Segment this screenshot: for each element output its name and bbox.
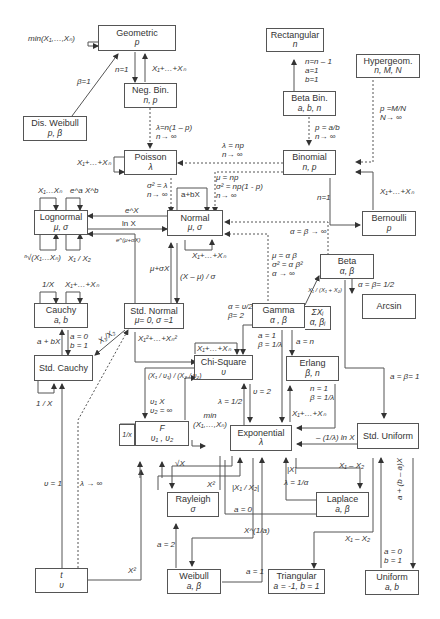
- node-params: n: [293, 40, 298, 50]
- node-std-normal: Std. Normal μ= 0, σ =1: [124, 303, 184, 329]
- node-neg-bin: Neg. Bin. n, p: [124, 83, 177, 108]
- label-gamma-erlang: a = n: [296, 338, 314, 347]
- label-logn-ratio: X₁ / X₂: [68, 255, 91, 264]
- label-logn-prod: X₁…Xₙ: [38, 187, 62, 196]
- label-betabin-bin: p = a/b n→ ∞: [315, 124, 340, 142]
- label-geo-min: min(X₁,…,Xₙ): [28, 35, 75, 44]
- label-unif-cond: a = 0 b = 1: [384, 548, 402, 566]
- label-laplace-diff: X₁ – X₂: [339, 462, 364, 471]
- node-laplace: Laplace a, β: [316, 492, 369, 517]
- label-a0: a = 0: [234, 506, 252, 515]
- label-unif-exp: – (1/λ) ln X: [316, 434, 355, 443]
- label-cauchy-inv: 1/X: [42, 281, 54, 290]
- label-bern-sum: X₁+…+Xₙ: [380, 188, 414, 197]
- label-abs-x: |X|: [287, 466, 297, 475]
- label-geo-sum: X₁+…+Xₙ: [152, 65, 186, 74]
- label-pois-sum: X₁+…+Xₙ: [77, 159, 111, 168]
- node-params: p: [135, 38, 140, 48]
- node-params: α , β: [270, 316, 287, 326]
- node-gamma-sum-box: ΣXᵢ α, βᵢ: [305, 306, 331, 330]
- node-params: n, p: [143, 96, 157, 106]
- label-logn-root: ⁿ√(X₁…Xₙ): [24, 254, 61, 263]
- label-t-sq: X²: [128, 567, 136, 576]
- node-params: a, b: [385, 583, 399, 593]
- node-normal: Normal μ, σ: [167, 210, 223, 236]
- label-bin-norm: μ = np σ² = np(1 - p) n→ ∞: [216, 174, 263, 200]
- node-rectangular: Rectangular n: [266, 28, 324, 52]
- node-cauchy: Cauchy a, b: [34, 303, 88, 328]
- node-chi-square: Chi-Square υ: [194, 355, 253, 380]
- label-erlang-cond: n = 1 β = 1/λ: [310, 385, 334, 403]
- label-gamma-exp: a = 1 β = 1/λ: [258, 332, 282, 350]
- label-hyper-cond: p =M/N N→ ∞: [380, 105, 406, 123]
- node-params: a, β: [187, 582, 201, 592]
- node-f: F υ₁ , υ₂: [135, 421, 189, 446]
- label-gamma-chi: α = υ/2 β= 2: [228, 303, 253, 321]
- label-disw-beta1: β=1: [77, 78, 91, 87]
- node-rayleigh: Rayleigh σ: [167, 492, 219, 517]
- node-beta-bin: Beta Bin. a, b, n: [283, 91, 336, 116]
- node-poisson: Poisson λ: [124, 150, 177, 175]
- node-name: Arcsin: [376, 301, 401, 311]
- label-bin-pois: λ = np n→ ∞: [222, 142, 244, 160]
- label-chi-sum: X₁+…+Xₙ: [197, 345, 231, 354]
- label-ratio-abs: |X₁ / X₂|: [232, 484, 259, 493]
- label-mu-sigma-exp: e^(μ+σX): [116, 237, 141, 244]
- node-uniform: Uniform a, b: [365, 570, 419, 595]
- node-beta: Beta α, β: [320, 254, 374, 279]
- label-beta-norm: α = β → ∞: [290, 228, 326, 237]
- node-params: n, p: [302, 163, 316, 173]
- node-exponential: Exponential λ: [230, 425, 292, 451]
- label-chi-f: (X₁ / υ₁) / (X₂ / υ₂): [148, 372, 202, 380]
- node-params: μ, σ: [188, 223, 203, 233]
- node-name: Std. Cauchy: [39, 363, 88, 373]
- node-params: n, M, N: [374, 66, 401, 76]
- node-hypergeom: Hypergeom. n, M, N: [356, 54, 420, 78]
- node-f-inv-box: 1/x: [119, 424, 135, 446]
- label-laplace-cond: λ = 1/α: [284, 479, 308, 488]
- node-params: λ: [259, 438, 263, 448]
- label-cauchy-sum: X₁+…+Xₙ: [65, 281, 99, 290]
- label-logn-pow: e^a X^b: [70, 187, 98, 196]
- node-params: a, b, n: [298, 104, 322, 114]
- node-params: a, β: [335, 505, 349, 515]
- label-ln-x: ln X: [122, 220, 136, 229]
- node-weibull: Weibull a, β: [167, 569, 221, 594]
- label-sqrt-x: √X: [175, 460, 185, 469]
- node-params: p: [387, 224, 392, 234]
- label-tri-diff: X₁ – X₂: [345, 535, 370, 544]
- node-params: a = -1, b = 1: [274, 582, 320, 592]
- node-dis-weibull: Dis. Weibull p, β: [23, 116, 87, 141]
- node-std-cauchy: Std. Cauchy: [34, 355, 93, 381]
- node-triangular: Triangular a = -1, b = 1: [268, 569, 325, 594]
- label-t-lambda: λ → ∞: [80, 480, 102, 489]
- label-norm-affine: a+bX: [181, 191, 200, 200]
- label-gamma-norm: μ = α β σ² = α β² α → ∞: [272, 252, 303, 278]
- node-params: λ: [148, 163, 152, 173]
- label-beta-stdunif: a = β= 1: [390, 373, 419, 382]
- label-weib-a1: a = 1: [246, 568, 264, 577]
- label-cauchy-affine: a + bX: [37, 338, 60, 347]
- label-unif-affine: a + (b – a)X: [396, 458, 405, 500]
- node-params: υ: [221, 368, 226, 378]
- label-stdnorm-sq: X₁²+…+Xₙ²: [138, 335, 177, 344]
- node-params: μ, σ: [54, 223, 69, 233]
- node-params: υ: [59, 581, 64, 591]
- label-f-lim: υ₁ X υ₂ = ∞: [150, 398, 172, 416]
- label-exp-x: e^X: [125, 207, 139, 216]
- label-norm-sum: X₁+…+Xₙ: [192, 252, 226, 261]
- node-name: Std. Uniform: [363, 431, 413, 441]
- label-weib-xpow: X^(1/a): [244, 527, 270, 536]
- label-rect-cond: n=n – 1 a=1 b=1: [305, 58, 332, 84]
- node-params: μ= 0, σ =1: [135, 316, 174, 326]
- node-params: σ: [190, 505, 195, 515]
- node-t: t υ: [35, 568, 88, 593]
- node-params: a, b: [54, 316, 68, 326]
- node-erlang: Erlang β, n: [286, 356, 339, 381]
- label-chi-exp-nu: υ = 2: [253, 388, 271, 397]
- label-exp-min: min (X₁,…,Xₙ): [193, 412, 227, 430]
- label-cauchy-cond: a = 0 b = 1: [70, 333, 88, 351]
- label-beta-arcsin: α = β= 1/2: [358, 281, 394, 290]
- label-weib-a2: a = 2: [157, 541, 175, 550]
- node-binomial: Binomial n, p: [283, 150, 336, 175]
